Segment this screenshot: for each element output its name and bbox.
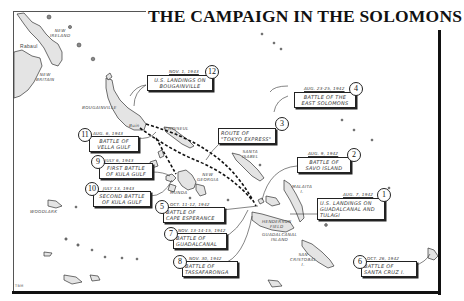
event-6-number: 6 xyxy=(353,255,367,269)
label-woodlark: WOODLARK xyxy=(30,209,57,214)
event-6-box: BATTLE OF SANTA CRUZ I. xyxy=(361,261,417,277)
artist-credit: TBM xyxy=(15,284,23,288)
event-2-number: 2 xyxy=(347,148,361,162)
label-guadalcanal-island: GUADALCANAL ISLAND xyxy=(262,232,297,242)
event-10-number: 10 xyxy=(85,182,99,196)
event-3-box: ROUTE OF "TOKYO EXPRESS" xyxy=(218,128,276,144)
label-choiseul: CHOISEUL I. xyxy=(165,126,189,136)
island-woodlark xyxy=(48,200,62,208)
event-9-number: 9 xyxy=(91,155,105,169)
event-12-number: 12 xyxy=(205,65,219,79)
label-new-britain: NEW BRITAIN xyxy=(36,72,55,82)
island-new-georgia xyxy=(178,170,196,190)
event-1-date: AUG. 7, 1942 xyxy=(343,192,373,197)
event-11-box: BATTLE OF VELLA GULF xyxy=(89,136,139,152)
label-santa-isabel: SANTA ISABEL xyxy=(242,149,258,159)
label-buin: Buin xyxy=(129,123,140,128)
event-1-number: 1 xyxy=(377,188,391,202)
island-santa-cruz xyxy=(428,248,438,260)
event-10-box: SECOND BATTLE OF KULA GULF xyxy=(93,191,151,207)
label-henderson-field: HENDERSON FIELD xyxy=(262,219,292,229)
label-new-georgia: NEW GEORGIA xyxy=(197,172,219,182)
event-8-number: 8 xyxy=(173,255,187,269)
page-title: THE CAMPAIGN IN THE SOLOMONS xyxy=(146,6,464,27)
event-12-date: NOV. 1, 1943 xyxy=(169,69,199,74)
event-7-number: 7 xyxy=(164,227,178,241)
label-new-ireland: NEW IRELAND xyxy=(50,28,70,38)
event-11-number: 11 xyxy=(78,128,92,142)
event-9-box: FIRST BATTLE OF KULA GULF xyxy=(99,163,153,179)
event-3-number: 3 xyxy=(275,117,289,131)
label-rabaul: Rabaul xyxy=(20,44,38,49)
event-4-box: BATTLE OF THE EAST SOLOMONS xyxy=(294,92,356,108)
event-8-box: BATTLE OF TASSAFARONGA xyxy=(182,261,238,277)
event-2-box: BATTLE OF SAVO ISLAND xyxy=(297,157,351,173)
label-malaita: MALAITA I. xyxy=(292,184,312,194)
label-san-cristobal: SAN CRISTOBAL I. xyxy=(290,252,316,267)
label-munda: MUNDA xyxy=(170,190,187,195)
event-12-box: U.S. LANDINGS ON BOUGAINVILLE xyxy=(147,75,213,91)
label-bougainville: BOUGAINVILLE xyxy=(82,105,117,110)
event-2-date: AUG. 9, 1942 xyxy=(308,151,338,156)
event-5-number: 5 xyxy=(155,200,169,214)
event-1-box: U.S. LANDINGS ON GUADALCANAL AND TULAGI xyxy=(317,198,385,220)
event-5-box: BATTLE OF CAPE ESPERANCE xyxy=(163,207,225,223)
event-7-box: BATTLE OF GUADALCANAL xyxy=(173,233,227,249)
event-4-number: 4 xyxy=(349,82,363,96)
island-bougainville xyxy=(106,78,146,130)
event-4-date: AUG. 23-25, 1942 xyxy=(304,86,345,91)
